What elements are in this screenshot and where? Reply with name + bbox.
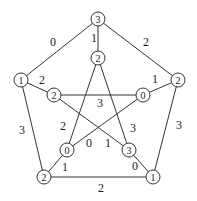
node-i_br: 3 (122, 143, 136, 157)
edge-label: 3 (130, 121, 136, 135)
edge-label: 2 (39, 73, 45, 87)
node-o_top: 3 (91, 12, 105, 26)
edge-i_top-i_bl (67, 58, 98, 150)
edge-label: 3 (176, 118, 182, 132)
node-label: 0 (141, 90, 146, 101)
node-label: 2 (42, 172, 47, 183)
node-i_right: 0 (136, 88, 150, 102)
edge-label: 2 (98, 181, 104, 195)
edge-label: 1 (91, 31, 97, 45)
edge-o_top-o_left (21, 19, 98, 80)
node-label: 2 (52, 90, 57, 101)
node-label: 3 (96, 14, 101, 25)
node-label: 1 (151, 172, 156, 183)
graph-diagram: 0233212110323013122122003 (0, 0, 197, 201)
node-label: 1 (19, 75, 24, 86)
node-label: 0 (65, 145, 70, 156)
edge-label: 2 (60, 119, 66, 133)
edge-label: 1 (62, 160, 68, 174)
node-o_br: 1 (146, 170, 160, 184)
graph-svg: 0233212110323013122122003 (0, 0, 197, 201)
edge-label: 3 (19, 123, 25, 137)
edge-label: 1 (152, 72, 158, 86)
node-o_left: 1 (14, 73, 28, 87)
node-o_bl: 2 (37, 170, 51, 184)
edge-label: 0 (132, 159, 138, 173)
node-i_top: 2 (91, 51, 105, 65)
node-i_bl: 0 (60, 143, 74, 157)
node-label: 2 (176, 75, 181, 86)
node-i_left: 2 (47, 88, 61, 102)
node-label: 2 (96, 53, 101, 64)
node-o_right: 2 (171, 73, 185, 87)
node-label: 3 (127, 145, 132, 156)
edge-label: 1 (105, 136, 111, 150)
edge-label: 0 (50, 35, 56, 49)
edge-o_top-o_right (98, 19, 178, 80)
edge-label: 2 (143, 35, 149, 49)
edge-label: 0 (86, 136, 92, 150)
edge-o_right-o_br (153, 80, 178, 177)
edge-label: 3 (97, 96, 103, 110)
